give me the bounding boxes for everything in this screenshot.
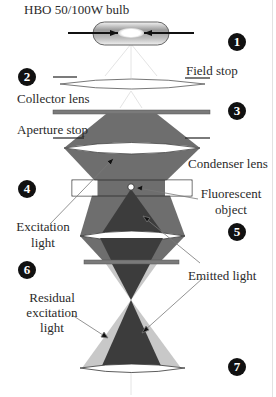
fluorescent-object xyxy=(128,184,134,190)
aperture-stop-label: Aperture stop xyxy=(17,123,88,137)
bulb xyxy=(68,22,194,45)
excitation-filter xyxy=(53,110,210,114)
emitted-light-label: Emitted light xyxy=(188,269,256,283)
badge-4: 4 xyxy=(18,180,36,198)
excitation-light-label-line1: Excitation xyxy=(12,220,74,234)
fluorescent-object-label: Fluorescent object xyxy=(196,187,266,217)
badge-7: 7 xyxy=(228,358,246,376)
fluorescent-object-label-line1: Fluorescent xyxy=(196,187,266,201)
collector-lens-label: Collector lens xyxy=(17,92,90,106)
residual-excitation-light-label: Residual excitation light xyxy=(22,291,82,335)
badge-2: 2 xyxy=(18,68,36,86)
residual-label-line2: excitation xyxy=(22,306,82,320)
excitation-light-label-line2: light xyxy=(12,236,74,250)
excitation-light-label: Excitation light xyxy=(12,220,74,250)
bulb-label: HBO 50/100W bulb xyxy=(24,3,129,17)
collector-lens xyxy=(60,79,205,89)
badge-3: 3 xyxy=(228,102,246,120)
page-edge-divider xyxy=(272,0,273,397)
residual-label-line1: Residual xyxy=(22,291,82,305)
badge-1: 1 xyxy=(228,33,246,51)
fluorescent-object-label-line2: object xyxy=(196,203,266,217)
badge-6: 6 xyxy=(18,261,36,279)
badge-5: 5 xyxy=(228,223,246,241)
condenser-lens-label: Condenser lens xyxy=(188,157,268,171)
residual-label-line3: light xyxy=(22,321,82,335)
emitted-light-converge xyxy=(112,264,150,300)
barrier-filter xyxy=(84,260,179,264)
field-stop-label: Field stop xyxy=(186,64,238,78)
